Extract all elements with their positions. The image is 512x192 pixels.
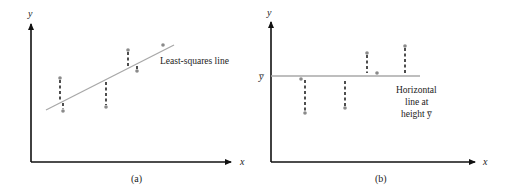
- horizontal-line-label-3: height y̅: [401, 109, 433, 119]
- x-axis-label: x: [239, 156, 245, 167]
- horizontal-line-label-2: line at: [405, 97, 429, 107]
- data-points: [58, 43, 165, 113]
- least-squares-label: Least-squares line: [160, 56, 229, 66]
- panel-a: y x (a) Least-squares line: [27, 8, 245, 185]
- x-axis-label: x: [482, 156, 488, 167]
- panel-caption: (b): [375, 173, 387, 185]
- residuals-diagram: y x (a) Least-squares line y x (b) y̅: [0, 0, 512, 192]
- panel-caption: (a): [131, 173, 142, 185]
- y-axis-label: y: [266, 7, 272, 18]
- residual-lines: [305, 48, 405, 111]
- data-points: [299, 44, 407, 115]
- y-bar-label: y̅: [258, 71, 265, 82]
- horizontal-line-label-1: Horizontal: [396, 85, 437, 95]
- least-squares-line: [46, 45, 174, 110]
- residual-lines: [60, 52, 137, 109]
- y-axis-label: y: [27, 8, 33, 19]
- panel-b: y x (b) y̅ Horizontal line at height y̅: [258, 7, 488, 185]
